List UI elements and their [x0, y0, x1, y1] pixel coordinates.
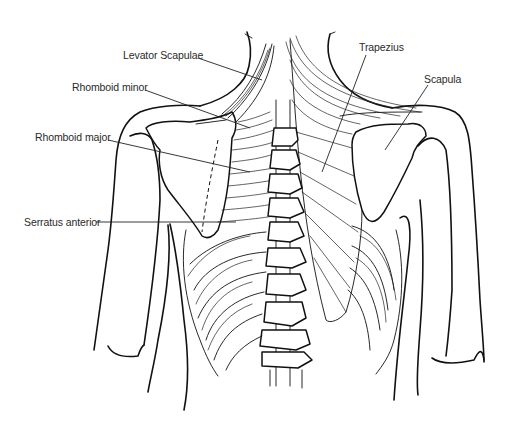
- label-levator-scapulae: Levator Scapulae: [123, 49, 203, 61]
- anatomy-diagram: Levator Scapulae Rhomboid minor Rhomboid…: [0, 0, 505, 432]
- ribs-right: [348, 226, 402, 374]
- label-scapula: Scapula: [424, 73, 461, 85]
- levator-scapulae-muscle: [222, 44, 274, 122]
- spine: [260, 100, 312, 388]
- label-rhomboid-major: Rhomboid major: [35, 131, 111, 143]
- ribs-left: [183, 230, 266, 376]
- leader-levator-scapulae: [198, 58, 262, 80]
- right-scapula: [340, 112, 426, 222]
- label-serratus-anterior: Serratus anterior: [24, 216, 101, 228]
- label-trapezius: Trapezius: [359, 41, 404, 53]
- label-rhomboid-minor: Rhomboid minor: [72, 81, 148, 93]
